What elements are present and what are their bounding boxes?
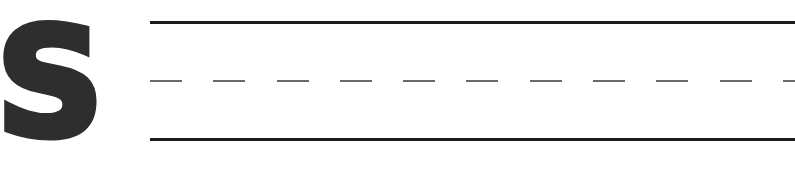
middle-dashed-guide-line xyxy=(150,80,795,82)
top-guide-line xyxy=(150,21,795,24)
sample-letter: S xyxy=(6,8,94,158)
baseline-guide-line xyxy=(150,138,795,141)
